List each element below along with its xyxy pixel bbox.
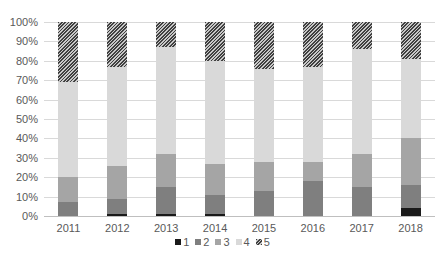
x-tick-label: 2017 <box>338 222 386 234</box>
bar-segment-series-3 <box>156 154 176 187</box>
x-tick-label: 2012 <box>93 222 141 234</box>
bar-segment-series-2 <box>156 187 176 214</box>
bar-segment-series-1 <box>401 208 421 216</box>
y-tick-label: 70% <box>0 74 38 86</box>
legend-swatch-icon <box>195 239 201 245</box>
gridline <box>44 197 435 198</box>
gridline <box>44 100 435 101</box>
y-tick-label: 100% <box>0 16 38 28</box>
legend-swatch-icon <box>175 239 181 245</box>
bar-segment-series-3 <box>205 164 225 195</box>
bar-segment-series-5 <box>401 22 421 59</box>
legend-label: 4 <box>244 236 250 248</box>
x-tick-label: 2013 <box>142 222 190 234</box>
legend-label: 3 <box>223 236 229 248</box>
bar-segment-series-5 <box>58 22 78 82</box>
y-tick-label: 40% <box>0 132 38 144</box>
bar-segment-series-5 <box>352 22 372 49</box>
bar-segment-series-2 <box>352 187 372 216</box>
legend-item-3: 3 <box>215 236 229 248</box>
y-tick-label: 80% <box>0 55 38 67</box>
gridline <box>44 177 435 178</box>
bar-segment-series-4 <box>254 69 274 162</box>
bar-segment-series-4 <box>107 67 127 166</box>
bar-segment-series-5 <box>254 22 274 69</box>
gridline <box>44 138 435 139</box>
x-tick-label: 2015 <box>240 222 288 234</box>
bar-segment-series-1 <box>205 214 225 216</box>
bar-segment-series-5 <box>205 22 225 61</box>
legend-item-2: 2 <box>195 236 209 248</box>
bar-2017 <box>352 22 372 216</box>
legend-swatch-icon <box>256 239 262 245</box>
x-tick-label: 2014 <box>191 222 239 234</box>
bar-segment-series-5 <box>107 22 127 67</box>
bar-segment-series-3 <box>303 162 323 181</box>
bar-segment-series-2 <box>254 191 274 216</box>
bar-segment-series-1 <box>156 214 176 216</box>
y-tick-label: 50% <box>0 113 38 125</box>
gridline <box>44 80 435 81</box>
bar-segment-series-4 <box>58 82 78 177</box>
bar-segment-series-2 <box>205 195 225 214</box>
bar-segment-series-5 <box>303 22 323 67</box>
bar-segment-series-4 <box>401 59 421 139</box>
bar-segment-series-4 <box>156 47 176 154</box>
bar-segment-series-5 <box>156 22 176 47</box>
gridline <box>44 119 435 120</box>
bar-segment-series-2 <box>107 199 127 215</box>
legend-label: 5 <box>264 236 270 248</box>
bar-2016 <box>303 22 323 216</box>
y-tick-label: 60% <box>0 94 38 106</box>
gridline <box>44 158 435 159</box>
bar-segment-series-3 <box>401 138 421 185</box>
bar-segment-series-1 <box>107 214 127 216</box>
legend-label: 2 <box>203 236 209 248</box>
legend-item-1: 1 <box>175 236 189 248</box>
bar-segment-series-3 <box>107 166 127 199</box>
legend: 12345 <box>0 236 445 248</box>
bar-segment-series-3 <box>352 154 372 187</box>
bar-segment-series-2 <box>303 181 323 216</box>
y-tick-label: 30% <box>0 152 38 164</box>
bar-segment-series-3 <box>58 177 78 202</box>
legend-label: 1 <box>183 236 189 248</box>
bar-segment-series-2 <box>401 185 421 208</box>
bar-2018 <box>401 22 421 216</box>
x-axis-line <box>44 216 435 217</box>
stacked-bar-chart: 0%10%20%30%40%50%60%70%80%90%100% 201120… <box>0 0 445 259</box>
gridline <box>44 22 435 23</box>
bar-2012 <box>107 22 127 216</box>
bar-2014 <box>205 22 225 216</box>
x-tick-label: 2018 <box>387 222 435 234</box>
bar-segment-series-3 <box>254 162 274 191</box>
legend-item-5: 5 <box>256 236 270 248</box>
bar-2011 <box>58 22 78 216</box>
y-tick-label: 0% <box>0 210 38 222</box>
y-tick-label: 90% <box>0 35 38 47</box>
bar-segment-series-4 <box>205 61 225 164</box>
y-tick-label: 10% <box>0 191 38 203</box>
bar-segment-series-4 <box>303 67 323 162</box>
legend-swatch-icon <box>215 239 221 245</box>
legend-swatch-icon <box>236 239 242 245</box>
x-tick-label: 2011 <box>44 222 92 234</box>
legend-item-4: 4 <box>236 236 250 248</box>
gridline <box>44 61 435 62</box>
x-tick-label: 2016 <box>289 222 337 234</box>
y-tick-label: 20% <box>0 171 38 183</box>
bar-2015 <box>254 22 274 216</box>
bar-segment-series-2 <box>58 202 78 216</box>
gridline <box>44 41 435 42</box>
bar-2013 <box>156 22 176 216</box>
bar-segment-series-4 <box>352 49 372 154</box>
